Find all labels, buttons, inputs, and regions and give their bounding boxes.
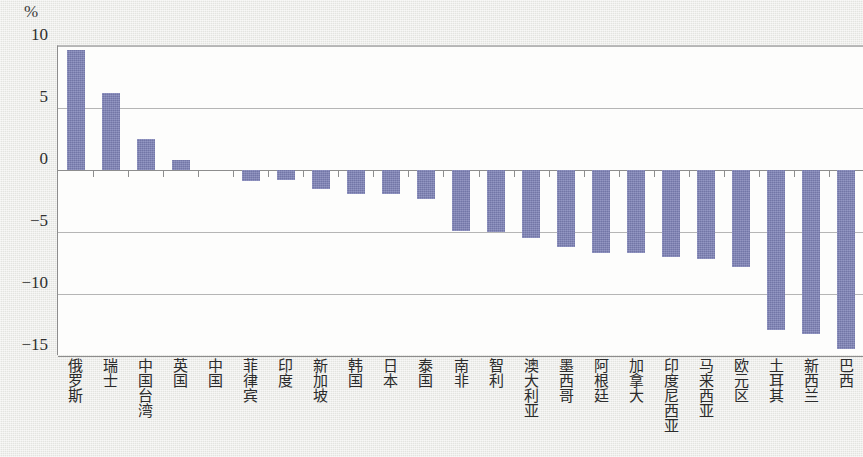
bar: [347, 170, 365, 194]
bar: [487, 170, 505, 232]
chart-page: % 1050−5−10−15 俄罗斯瑞士中国台湾英国中国菲律宾印度新加坡韩国日本…: [0, 0, 863, 457]
bar: [137, 139, 155, 170]
bar: [382, 170, 400, 194]
x-axis-label: 墨西哥: [557, 358, 572, 403]
y-tick-label: −5: [0, 211, 48, 231]
bar: [67, 50, 85, 170]
x-axis-tick: [689, 170, 690, 177]
bar: [767, 170, 785, 330]
x-axis-tick: [303, 170, 304, 177]
bar: [627, 170, 645, 253]
bar: [452, 170, 470, 231]
y-tick-label: 0: [0, 149, 48, 169]
x-axis-label: 智利: [487, 358, 502, 388]
x-axis-tick: [514, 170, 515, 177]
x-axis-category-labels: 俄罗斯瑞士中国台湾英国中国菲律宾印度新加坡韩国日本泰国南非智利澳大利亚墨西哥阿根…: [0, 358, 863, 457]
x-axis-tick: [268, 170, 269, 177]
x-axis-tick: [93, 170, 94, 177]
x-axis-label: 日本: [382, 358, 397, 388]
x-axis-label: 新加坡: [312, 358, 327, 403]
x-axis-label: 土耳其: [767, 358, 782, 403]
y-tick-label: 5: [0, 87, 48, 107]
x-axis-tick: [233, 170, 234, 177]
bar: [417, 170, 435, 199]
x-axis-tick: [338, 170, 339, 177]
bar: [277, 170, 295, 180]
x-axis-label: 加拿大: [627, 358, 642, 403]
x-axis-tick: [198, 170, 199, 177]
bar-series: [58, 46, 863, 355]
x-axis-label: 韩国: [347, 358, 362, 388]
x-axis-label: 澳大利亚: [522, 358, 537, 418]
x-axis-label: 新西兰: [802, 358, 817, 403]
x-axis-label: 印度: [277, 358, 292, 388]
bar: [172, 160, 190, 170]
x-axis-label: 俄罗斯: [67, 358, 82, 403]
bar: [557, 170, 575, 247]
x-axis-tick: [443, 170, 444, 177]
x-axis-label: 欧元区: [732, 358, 747, 403]
x-axis-tick: [128, 170, 129, 177]
bar: [102, 93, 120, 170]
x-axis-label: 英国: [172, 358, 187, 388]
x-axis-tick: [794, 170, 795, 177]
bar: [802, 170, 820, 334]
x-axis-tick: [479, 170, 480, 177]
gridline--15: [58, 356, 863, 357]
y-tick-label: 10: [0, 25, 48, 45]
x-axis-label: 菲律宾: [242, 358, 257, 403]
x-axis-label: 中国: [207, 358, 222, 388]
bar: [242, 170, 260, 181]
x-axis-tick: [373, 170, 374, 177]
bar: [697, 170, 715, 259]
x-axis-label: 瑞士: [102, 358, 117, 388]
x-axis-tick: [408, 170, 409, 177]
x-axis-label: 巴西: [837, 358, 852, 388]
x-axis-tick: [724, 170, 725, 177]
plot-area: [57, 45, 863, 355]
x-axis-tick: [759, 170, 760, 177]
bar: [522, 170, 540, 238]
x-axis-tick: [163, 170, 164, 177]
y-tick-label: −15: [0, 335, 48, 355]
x-axis-tick: [654, 170, 655, 177]
y-axis-unit-label: %: [24, 2, 39, 22]
x-axis-label: 泰国: [417, 358, 432, 388]
y-tick-label: −10: [0, 273, 48, 293]
bar: [732, 170, 750, 267]
x-axis-tick: [829, 170, 830, 177]
x-axis-label: 中国台湾: [137, 358, 152, 418]
x-axis-label: 阿根廷: [592, 358, 607, 403]
x-axis-label: 马来西亚: [697, 358, 712, 418]
x-axis-label: 南非: [452, 358, 467, 388]
x-axis-tick: [619, 170, 620, 177]
bar: [312, 170, 330, 189]
x-axis-tick: [549, 170, 550, 177]
bar: [662, 170, 680, 257]
bar: [837, 170, 855, 349]
bar: [592, 170, 610, 253]
x-axis-label: 印度尼西亚: [662, 358, 677, 433]
x-axis-tick: [584, 170, 585, 177]
